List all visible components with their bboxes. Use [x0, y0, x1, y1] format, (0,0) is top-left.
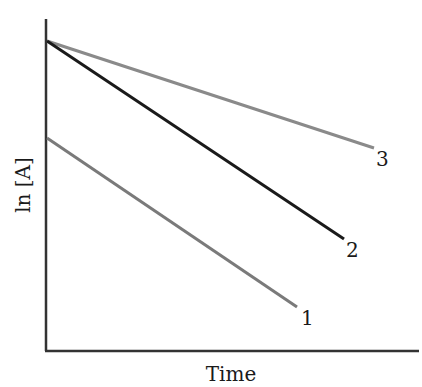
- series-label-3: 3: [376, 147, 389, 171]
- x-axis-label: Time: [206, 362, 257, 386]
- series-label-2: 2: [346, 238, 359, 262]
- series-line-3: [47, 41, 374, 148]
- chart-figure: 3 2 1 Time ln [A]: [0, 0, 422, 387]
- chart-svg: 3 2 1 Time ln [A]: [0, 0, 422, 387]
- y-axis-label: ln [A]: [11, 157, 35, 213]
- series-label-1: 1: [301, 306, 314, 330]
- series-line-1: [47, 138, 297, 307]
- series-line-2: [47, 41, 344, 239]
